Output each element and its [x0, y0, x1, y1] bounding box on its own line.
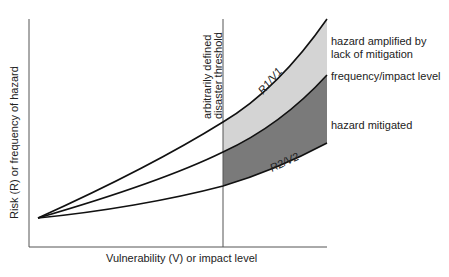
label-amplified-line1: hazard amplified by	[331, 35, 426, 48]
x-axis-label: Vulnerability (V) or impact level	[106, 252, 257, 265]
label-mitigated: hazard mitigated	[331, 119, 412, 132]
threshold-label-line2: disaster threshold	[212, 32, 224, 119]
label-frequency: frequency/impact level	[331, 70, 440, 83]
y-axis-label: Risk (R) or frequency of hazard	[8, 66, 20, 219]
label-amplified-line2: lack of mitigation	[331, 48, 413, 61]
